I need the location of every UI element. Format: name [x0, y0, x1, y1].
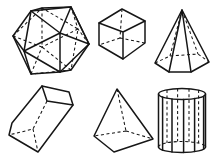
cube-solid-edges: [99, 21, 145, 59]
solids-canvas: [0, 0, 214, 160]
hexagonal-pyramid-solid-edges: [169, 10, 191, 72]
hexagonal-pyramid-dashed-edges: [155, 54, 209, 63]
hexagonal-pyramid: [155, 10, 209, 72]
square-pyramid: [94, 89, 153, 152]
cube: [99, 9, 145, 59]
square-pyramid-dashed-edges: [94, 89, 153, 139]
square-pyramid-solid-edges: [94, 89, 153, 152]
cylinder-prism: [159, 89, 206, 153]
icosahedron: [13, 7, 89, 74]
hexagonal-pyramid-solid-edges: [155, 10, 209, 72]
rectangular-prism-dashed-edges: [9, 101, 47, 152]
rectangular-prism: [9, 86, 73, 152]
cube-dashed-edges: [99, 9, 145, 45]
cylinder-prism-solid-edges: [159, 147, 206, 153]
solids-figure: [0, 0, 214, 160]
rectangular-prism-solid-edges: [9, 86, 73, 152]
